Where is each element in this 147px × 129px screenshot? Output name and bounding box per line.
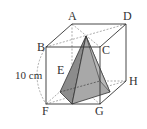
dimension-label: 10 cm <box>15 69 43 81</box>
label-B: B <box>37 40 45 54</box>
label-G: G <box>95 104 104 118</box>
cube-pyramid-diagram: A D B C E H F G 10 cm <box>0 0 147 129</box>
label-H: H <box>129 74 138 88</box>
label-F: F <box>42 104 49 118</box>
label-D: D <box>123 9 132 23</box>
label-E: E <box>57 63 64 77</box>
label-C: C <box>102 43 110 57</box>
label-A: A <box>68 9 77 23</box>
